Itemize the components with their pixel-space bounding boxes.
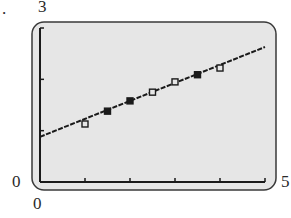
hollow-square-marker	[172, 79, 178, 85]
calculator-screen	[32, 22, 276, 190]
hollow-square-marker	[82, 121, 88, 127]
filled-square-marker	[105, 108, 111, 114]
filled-square-marker	[127, 98, 133, 104]
filled-square-marker	[195, 72, 201, 78]
hollow-square-marker	[217, 65, 223, 71]
calculator-screen-plot	[0, 0, 291, 218]
hollow-square-marker	[150, 89, 156, 95]
